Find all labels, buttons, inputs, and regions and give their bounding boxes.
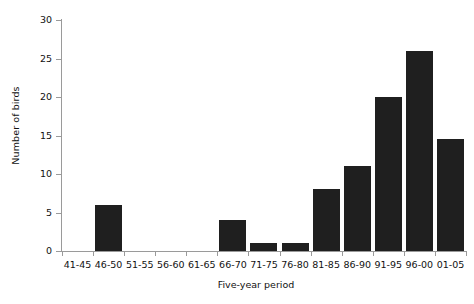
y-tick-label: 5	[30, 207, 52, 218]
bar-slot	[435, 20, 466, 251]
bar-66-70[interactable]	[219, 220, 246, 251]
bar-slot	[280, 20, 311, 251]
y-axis-title: Number of birds	[4, 0, 26, 250]
bar-slot	[62, 20, 93, 251]
y-tick-mark	[56, 213, 61, 214]
bar-chart-figure: Number of birds Five-year period 0510152…	[0, 0, 474, 304]
x-axis-title: Five-year period	[0, 279, 474, 290]
bar-slot	[93, 20, 124, 251]
bar-slot	[404, 20, 435, 251]
y-tick-mark	[56, 136, 61, 137]
y-tick-label: 10	[30, 168, 52, 179]
x-axis-line	[61, 251, 467, 252]
bar-slot	[217, 20, 248, 251]
bar-46-50[interactable]	[95, 205, 122, 251]
bar-slot	[124, 20, 155, 251]
x-tick-mark	[93, 252, 94, 256]
y-tick-label: 15	[30, 130, 52, 141]
x-tick-mark	[62, 252, 63, 256]
x-tick-mark	[435, 252, 436, 256]
y-tick-label: 30	[30, 14, 52, 25]
x-tick-mark	[124, 252, 125, 256]
x-tick-mark	[373, 252, 374, 256]
x-tick-mark	[466, 252, 467, 256]
x-tick-mark	[280, 252, 281, 256]
bar-slot	[186, 20, 217, 251]
y-tick-label: 20	[30, 91, 52, 102]
y-axis-title-label: Number of birds	[10, 86, 21, 164]
bar-slot	[342, 20, 373, 251]
x-tick-mark	[186, 252, 187, 256]
x-axis-title-label: Five-year period	[180, 279, 295, 290]
bar-71-75[interactable]	[250, 243, 277, 251]
y-tick-mark	[56, 251, 61, 252]
y-tick-label: 0	[30, 245, 52, 256]
bar-01-05[interactable]	[437, 139, 464, 251]
bar-76-80[interactable]	[282, 243, 309, 251]
bar-slot	[248, 20, 279, 251]
bar-slot	[311, 20, 342, 251]
bar-86-90[interactable]	[344, 166, 371, 251]
y-tick-mark	[56, 97, 61, 98]
x-tick-mark	[155, 252, 156, 256]
x-tick-mark	[342, 252, 343, 256]
bar-81-85[interactable]	[313, 189, 340, 251]
x-tick-label: 01-05	[430, 259, 470, 270]
y-tick-mark	[56, 20, 61, 21]
x-tick-mark	[404, 252, 405, 256]
y-tick-label: 25	[30, 53, 52, 64]
bar-slot	[373, 20, 404, 251]
bar-96-00[interactable]	[406, 51, 433, 251]
x-tick-mark	[217, 252, 218, 256]
x-tick-mark	[311, 252, 312, 256]
y-tick-mark	[56, 174, 61, 175]
x-tick-mark	[248, 252, 249, 256]
bar-slot	[155, 20, 186, 251]
y-tick-mark	[56, 59, 61, 60]
plot-area	[62, 20, 466, 251]
bar-91-95[interactable]	[375, 97, 402, 251]
